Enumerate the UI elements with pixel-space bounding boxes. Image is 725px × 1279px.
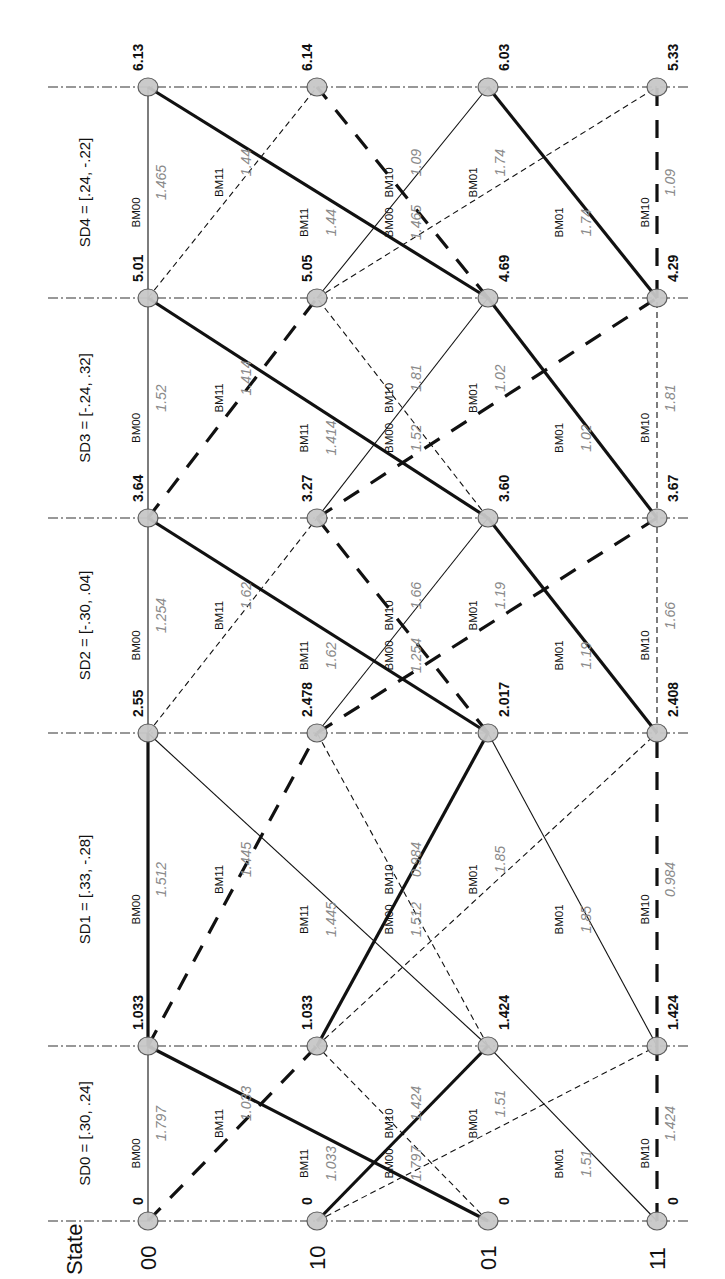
branch-weight-label: 1.85 — [492, 846, 508, 873]
branch-weight-label: 1.74 — [578, 209, 594, 236]
branch-weight-label: 1.62 — [323, 642, 339, 669]
branch-10-to-11-sd4 — [317, 87, 657, 298]
state-node-10-t0 — [307, 1212, 327, 1230]
branch-weight-label: 1.512 — [408, 902, 424, 937]
state-node-10-t2 — [307, 724, 327, 742]
path-metric-value: 0 — [665, 1197, 681, 1205]
branch-weight-label: 1.414 — [238, 360, 254, 395]
branch-weight-label: 1.52 — [153, 384, 169, 411]
path-metric-value: 5.05 — [299, 255, 315, 282]
branch-metric-label: BM10 — [383, 383, 395, 413]
branch-weight-label: 1.09 — [662, 169, 678, 196]
path-metric-value: 2.408 — [665, 682, 681, 717]
branch-metric-label: BM01 — [553, 640, 565, 670]
state-node-00-t0 — [138, 1212, 158, 1230]
state-node-01-t5 — [478, 78, 498, 96]
branch-metric-label: BM00 — [383, 904, 395, 934]
branch-weight-label: 0.984 — [662, 862, 678, 897]
branch-metric-label: BM01 — [467, 600, 479, 630]
path-metric-value: 0 — [299, 1197, 315, 1205]
path-metric-value: 2.017 — [496, 682, 512, 717]
branch-weight-label: 1.81 — [408, 364, 424, 391]
branch-metric-label: BM11 — [298, 641, 310, 670]
state-label-11: 11 — [645, 1247, 670, 1270]
branch-00-to-10-sd1 — [148, 733, 317, 1046]
branch-weight-label: 1.033 — [238, 1086, 254, 1121]
branch-weight-label: 1.81 — [662, 384, 678, 411]
branch-weight-label: 1.19 — [492, 582, 508, 609]
branch-weight-label: 1.09 — [408, 149, 424, 176]
state-node-00-t2 — [138, 724, 158, 742]
branch-01-to-00-sd4 — [148, 87, 488, 298]
branch-weight-label: 1.465 — [408, 205, 424, 240]
branch-metric-label: BM01 — [467, 383, 479, 413]
path-metric-value: 1.033 — [130, 995, 146, 1030]
state-node-11-t1 — [647, 1037, 667, 1055]
state-node-11-t0 — [647, 1212, 667, 1230]
branch-metric-label: BM01 — [553, 423, 565, 453]
branch-metric-label: BM11 — [298, 905, 310, 934]
branch-weight-label: 1.66 — [408, 582, 424, 609]
branch-metric-label: BM11 — [298, 1149, 310, 1178]
branch-metric-label: BM11 — [213, 865, 225, 894]
path-metric-value: 1.033 — [299, 995, 315, 1030]
branch-11-to-01-sd2 — [488, 518, 657, 733]
branch-metric-label: BM11 — [298, 208, 310, 237]
branch-weight-label: 1.512 — [153, 862, 169, 897]
branch-weight-label: 1.51 — [578, 1150, 594, 1177]
branch-weight-label: 1.74 — [492, 149, 508, 176]
branch-weight-label: 1.19 — [578, 642, 594, 669]
path-metric-value: 5.33 — [665, 44, 681, 71]
path-metric-value: 6.13 — [130, 44, 146, 71]
branch-weight-label: 1.424 — [408, 1086, 424, 1121]
state-node-10-t3 — [307, 509, 327, 527]
branch-01-to-00-sd3 — [148, 298, 488, 518]
branch-weight-label: 1.424 — [662, 1106, 678, 1141]
branch-metric-label: BM01 — [467, 1108, 479, 1138]
viterbi-trellis-diagram: BM001.797BM111.033BM111.033BM001.797BM10… — [0, 0, 725, 1279]
branch-metric-label: BM10 — [383, 167, 395, 197]
state-node-01-t4 — [478, 289, 498, 307]
branch-metric-label: BM10 — [639, 630, 651, 660]
state-label-01: 01 — [476, 1246, 501, 1270]
branch-metric-label: BM10 — [639, 197, 651, 227]
branch-weight-label: 1.465 — [153, 165, 169, 200]
path-metric-value: 0 — [130, 1197, 146, 1205]
branch-01-to-00-sd0 — [148, 1046, 488, 1221]
path-metric-value: 3.27 — [299, 475, 315, 502]
state-node-11-t4 — [647, 289, 667, 307]
branch-weight-label: 1.52 — [408, 424, 424, 451]
branch-metric-label: BM00 — [383, 1148, 395, 1178]
state-node-11-t2 — [647, 724, 667, 742]
path-metric-value: 1.424 — [665, 995, 681, 1030]
branch-weight-label: 1.445 — [238, 842, 254, 877]
branch-metric-label: BM01 — [553, 904, 565, 934]
branch-metric-label: BM11 — [298, 423, 310, 452]
state-node-00-t1 — [138, 1037, 158, 1055]
path-metric-value: 1.424 — [496, 995, 512, 1030]
state-label-00: 00 — [136, 1246, 161, 1270]
branch-10-to-11-sd0 — [317, 1046, 657, 1221]
branch-11-to-01-sd4 — [488, 87, 657, 298]
branch-metric-label: BM00 — [383, 207, 395, 237]
path-metric-value: 5.01 — [130, 255, 146, 282]
branch-10-to-01-sd0 — [317, 1046, 488, 1221]
state-node-10-t5 — [307, 78, 327, 96]
branch-weight-label: 1.44 — [323, 209, 339, 236]
branch-00-to-10-sd0 — [148, 1046, 317, 1221]
branch-weight-label: 1.254 — [408, 638, 424, 673]
branch-weight-label: 1.02 — [578, 424, 594, 451]
state-node-01-t0 — [478, 1212, 498, 1230]
branch-metric-label: BM01 — [553, 207, 565, 237]
branch-00-to-10-sd2 — [148, 518, 317, 733]
branch-metric-label: BM00 — [130, 1138, 142, 1168]
branch-weight-label: 1.51 — [492, 1090, 508, 1117]
branch-11-to-01-sd0 — [488, 1046, 657, 1221]
branch-10-to-11-sd2 — [317, 518, 657, 733]
branch-weight-label: 0.984 — [408, 842, 424, 877]
stage-decision-label-sd3: SD3 = [-.24, .32] — [76, 353, 93, 463]
branch-metric-label: BM01 — [467, 864, 479, 894]
branch-11-to-01-sd1 — [488, 733, 657, 1046]
branch-11-to-01-sd3 — [488, 298, 657, 518]
branch-10-to-11-sd1 — [317, 733, 657, 1046]
